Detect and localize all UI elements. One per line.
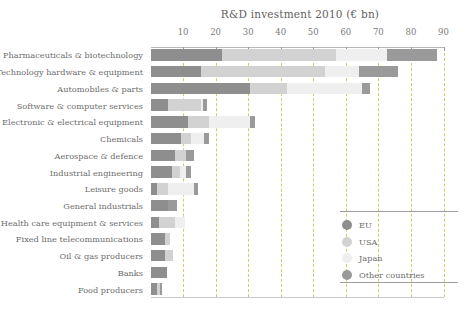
- bar-row[interactable]: [151, 214, 444, 231]
- y-axis-label: Food producers: [78, 285, 143, 295]
- bar-row[interactable]: [151, 147, 444, 164]
- legend-item-other-countries[interactable]: Other countries: [342, 267, 425, 283]
- bar-segment-eu[interactable]: [151, 116, 188, 128]
- y-axis-label: Pharmaceuticals & biotechnology: [3, 50, 143, 60]
- bar-segment-eu[interactable]: [151, 49, 223, 61]
- gridline-90: [444, 48, 445, 297]
- bar-segment-usa[interactable]: [175, 150, 186, 162]
- bar-segment-eu[interactable]: [151, 66, 201, 78]
- legend-item-japan[interactable]: Japan: [342, 250, 383, 266]
- y-axis-label: Aerospace & defence: [54, 151, 143, 161]
- y-axis-label: Leisure goods: [85, 184, 143, 194]
- bar-segment-japan[interactable]: [325, 66, 359, 78]
- bar-segment-eu[interactable]: [151, 267, 167, 279]
- bar-segment-eu[interactable]: [151, 150, 175, 162]
- stacked-bar[interactable]: [151, 283, 162, 295]
- y-axis-label: Chemicals: [100, 134, 143, 144]
- stacked-bar[interactable]: [151, 49, 437, 61]
- bar-segment-usa[interactable]: [250, 83, 287, 95]
- y-axis-label: Automobiles & parts: [57, 84, 143, 94]
- y-axis-category-labels: Pharmaceuticals & biotechnologyTechnolog…: [0, 47, 147, 298]
- bar-segment-other-countries[interactable]: [186, 150, 194, 162]
- stacked-bar[interactable]: [151, 200, 177, 212]
- bar-segment-other-countries[interactable]: [204, 133, 209, 145]
- stacked-bar[interactable]: [151, 66, 398, 78]
- stacked-bar[interactable]: [151, 166, 192, 178]
- y-axis-label: Electronic & electrical equipment: [2, 117, 143, 127]
- bar-segment-usa[interactable]: [159, 217, 175, 229]
- legend-swatch-icon: [342, 253, 352, 263]
- bar-row[interactable]: [151, 164, 444, 181]
- bar-segment-usa[interactable]: [165, 250, 173, 262]
- legend-top-rule: [340, 211, 458, 212]
- stacked-bar[interactable]: [151, 83, 371, 95]
- stacked-bar[interactable]: [151, 217, 185, 229]
- bar-segment-other-countries[interactable]: [203, 99, 208, 111]
- stacked-bar[interactable]: [151, 150, 195, 162]
- bar-segment-other-countries[interactable]: [194, 183, 197, 195]
- bar-segment-usa[interactable]: [222, 49, 336, 61]
- bar-row[interactable]: [151, 248, 444, 265]
- stacked-bar[interactable]: [151, 116, 255, 128]
- stacked-bar[interactable]: [151, 233, 171, 245]
- bar-segment-other-countries[interactable]: [359, 66, 398, 78]
- legend-swatch-icon: [342, 237, 352, 247]
- y-axis-label: General industrials: [63, 201, 143, 211]
- bar-segment-usa[interactable]: [168, 99, 201, 111]
- bar-segment-usa[interactable]: [165, 233, 170, 245]
- bar-row[interactable]: [151, 80, 444, 97]
- stacked-bar[interactable]: [151, 183, 198, 195]
- bar-row[interactable]: [151, 181, 444, 198]
- bar-row[interactable]: [151, 131, 444, 148]
- bar-segment-other-countries[interactable]: [168, 200, 176, 212]
- x-tick-mark-90: [444, 47, 445, 51]
- bar-segment-eu[interactable]: [151, 250, 166, 262]
- bar-row[interactable]: [151, 47, 444, 64]
- bar-segment-usa[interactable]: [188, 116, 209, 128]
- bar-segment-eu[interactable]: [151, 233, 166, 245]
- x-tick-label-50: 50: [308, 27, 319, 37]
- x-tick-label-70: 70: [373, 27, 384, 37]
- bar-segment-other-countries[interactable]: [250, 116, 255, 128]
- bar-segment-japan[interactable]: [336, 49, 386, 61]
- bar-segment-usa[interactable]: [157, 183, 168, 195]
- bar-row[interactable]: [151, 97, 444, 114]
- chart-page: R&D investment 2010 (€ bn) 1020304050607…: [0, 0, 470, 314]
- bar-row[interactable]: [151, 231, 444, 248]
- bar-segment-other-countries[interactable]: [387, 49, 437, 61]
- y-axis-label: Technology hardware & equipment: [0, 67, 143, 77]
- plot-area: [151, 47, 444, 298]
- x-tick-label-60: 60: [340, 27, 351, 37]
- bar-segment-eu[interactable]: [151, 200, 169, 212]
- bar-segment-japan[interactable]: [168, 183, 194, 195]
- y-axis-label: Industrial engineering: [50, 168, 143, 178]
- y-axis-label: Oil & gas producers: [59, 251, 143, 261]
- bar-segment-other-countries[interactable]: [362, 83, 370, 95]
- bar-segment-japan[interactable]: [287, 83, 362, 95]
- bar-segment-japan[interactable]: [175, 217, 185, 229]
- bar-segment-other-countries[interactable]: [160, 283, 162, 295]
- bar-segment-japan[interactable]: [209, 116, 250, 128]
- stacked-bar[interactable]: [151, 99, 208, 111]
- bar-row[interactable]: [151, 114, 444, 131]
- legend-item-eu[interactable]: EU: [342, 217, 372, 233]
- bar-segment-eu[interactable]: [151, 83, 250, 95]
- bar-segment-eu[interactable]: [151, 166, 172, 178]
- legend-label: Other countries: [359, 270, 425, 280]
- bar-segment-usa[interactable]: [181, 133, 191, 145]
- stacked-bar[interactable]: [151, 133, 210, 145]
- bar-rows: [151, 47, 444, 298]
- x-tick-label-30: 30: [243, 27, 254, 37]
- bar-segment-eu[interactable]: [151, 217, 159, 229]
- stacked-bar[interactable]: [151, 267, 167, 279]
- bar-segment-usa[interactable]: [172, 166, 180, 178]
- stacked-bar[interactable]: [151, 250, 174, 262]
- bar-segment-eu[interactable]: [151, 99, 169, 111]
- bar-row[interactable]: [151, 281, 444, 298]
- bar-segment-other-countries[interactable]: [186, 166, 191, 178]
- legend-item-usa[interactable]: USA: [342, 234, 377, 250]
- bar-segment-eu[interactable]: [151, 133, 182, 145]
- bar-row[interactable]: [151, 64, 444, 81]
- bar-segment-japan[interactable]: [191, 133, 204, 145]
- bar-segment-usa[interactable]: [201, 66, 325, 78]
